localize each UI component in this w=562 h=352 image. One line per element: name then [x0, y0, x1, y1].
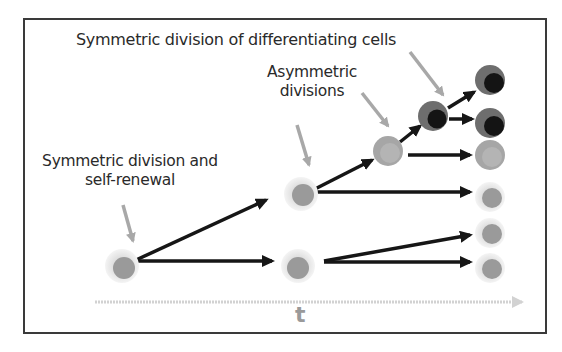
- label-asymmetric: Asymmetric divisions: [262, 63, 362, 101]
- cell-gen1-upper-stem: [284, 177, 318, 211]
- cell-final-6: [475, 253, 505, 283]
- arrow-lower-to-final5: [324, 235, 470, 261]
- cell-differentiating: [418, 101, 448, 131]
- time-axis-label: t: [295, 305, 305, 324]
- pointer-self-renewal: [123, 205, 133, 241]
- label-self-renewal-line2: self-renewal: [30, 171, 230, 190]
- arrow-origin-to-upper: [136, 200, 266, 260]
- cell-final-1: [475, 65, 505, 95]
- label-differentiating: Symmetric division of differentiating ce…: [76, 30, 396, 49]
- pointer-differentiating: [410, 52, 443, 95]
- cell-origin-stem: [105, 249, 139, 283]
- label-self-renewal-line1: Symmetric division and: [30, 152, 230, 171]
- cell-asymmetric-progenitor: [373, 136, 403, 166]
- cell-gen1-lower-stem: [281, 249, 315, 283]
- cell-final-3: [475, 140, 505, 170]
- label-asymmetric-line1: Asymmetric: [262, 63, 362, 82]
- label-self-renewal: Symmetric division and self-renewal: [30, 152, 230, 190]
- arrow-progenitor-to-diff: [400, 126, 420, 142]
- cell-final-4: [475, 182, 505, 212]
- arrow-diff-to-final1: [448, 92, 474, 108]
- label-asymmetric-line2: divisions: [262, 82, 362, 101]
- pointer-asymmetric-gen1: [297, 125, 309, 165]
- arrow-upper-to-progenitor: [313, 160, 372, 190]
- cell-final-2: [475, 108, 505, 138]
- cell-final-5: [475, 218, 505, 248]
- pointer-asymmetric-progenitor: [362, 93, 388, 126]
